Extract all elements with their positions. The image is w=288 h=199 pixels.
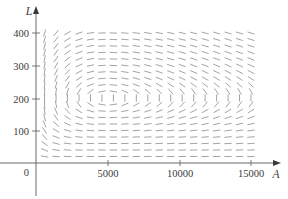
slope-segment (238, 89, 241, 95)
slope-segment (156, 110, 162, 112)
slope-segment (237, 64, 243, 67)
direction-field-segments (41, 30, 254, 157)
slope-segment (133, 33, 140, 34)
slope-segment (87, 39, 94, 40)
slope-segment (226, 89, 230, 95)
slope-segment (192, 89, 196, 94)
slope-segment (122, 110, 128, 111)
slope-segment (64, 136, 70, 137)
slope-segment (248, 130, 255, 131)
slope-segment (191, 64, 197, 66)
slope-segment (236, 39, 242, 41)
slope-segment (202, 123, 208, 124)
slope-segment (248, 109, 254, 112)
slope-segment (191, 102, 195, 107)
slope-segment (145, 77, 151, 79)
slope-segment (156, 77, 162, 80)
slope-segment (179, 64, 185, 66)
slope-segment (179, 83, 184, 87)
slope-segment (202, 71, 208, 74)
slope-segment (133, 117, 140, 118)
slope-segment (44, 36, 46, 42)
slope-segment (214, 71, 220, 74)
slope-segment (87, 65, 93, 66)
y-tick-label-100: 100 (13, 126, 29, 137)
slope-segment (249, 102, 253, 107)
slope-segment (133, 110, 139, 112)
y-tick-label-400: 400 (13, 28, 29, 39)
slope-segment (213, 123, 219, 124)
slope-segment (145, 124, 152, 125)
slope-segment (179, 77, 185, 80)
slope-segment (56, 88, 57, 95)
slope-segment (214, 109, 220, 112)
x-tick-label-5000: 5000 (98, 168, 119, 179)
slope-segment (190, 130, 197, 131)
slope-segment (54, 115, 58, 120)
slope-segment (76, 137, 83, 138)
slope-segment (248, 123, 254, 124)
slope-segment (76, 77, 82, 81)
slope-segment (168, 65, 174, 67)
slope-segment (236, 123, 242, 124)
x-tick-label-10000: 10000 (167, 168, 193, 179)
slope-segment (236, 137, 243, 138)
slope-segment (44, 30, 46, 36)
slope-segment (76, 51, 82, 53)
slope-segment (44, 69, 45, 76)
slope-segment (44, 114, 46, 120)
slope-segment (54, 122, 59, 126)
slope-segment (179, 130, 186, 131)
slope-segment (156, 130, 163, 131)
slope-segment (179, 137, 186, 138)
slope-segment (99, 104, 106, 105)
slope-segment (145, 130, 152, 131)
slope-segment (54, 30, 58, 35)
slope-segment (202, 39, 208, 41)
slope-segment (54, 37, 58, 42)
slope-segment (133, 39, 140, 40)
slope-segment (190, 123, 196, 124)
slope-segment (214, 64, 220, 67)
slope-segment (156, 45, 162, 46)
slope-segment (99, 111, 106, 112)
slope-segment (44, 75, 45, 82)
slope-segment (168, 110, 174, 113)
slope-segment (43, 121, 45, 127)
slope-segment (76, 70, 82, 73)
slope-segment (133, 58, 140, 59)
slope-segment (215, 102, 219, 107)
slope-segment (87, 110, 93, 112)
slope-segment (133, 52, 140, 53)
slope-segment (202, 64, 208, 66)
slope-segment (122, 103, 128, 105)
slope-segment (133, 65, 139, 66)
slope-segment (87, 117, 94, 118)
slope-segment (213, 32, 219, 34)
slope-segment (225, 32, 231, 34)
slope-segment (157, 89, 162, 94)
slope-segment (54, 50, 58, 55)
slope-segment (179, 39, 185, 41)
slope-segment (55, 108, 58, 114)
slope-segment (248, 51, 254, 53)
slope-segment (225, 58, 231, 60)
slope-segment (44, 56, 45, 62)
slope-segment (76, 109, 82, 112)
slope-segment (66, 101, 68, 107)
slope-segment (53, 150, 60, 151)
slope-segment (237, 83, 242, 87)
slope-segment (66, 82, 69, 88)
slope-segment (65, 123, 71, 126)
slope-segment (179, 123, 186, 124)
slope-segment (225, 77, 231, 80)
slope-segment (122, 52, 129, 53)
y-tick-label-200: 200 (13, 94, 29, 105)
slope-segment (213, 39, 219, 41)
slope-segment (168, 45, 174, 47)
slope-segment (225, 130, 232, 131)
slope-segment (54, 56, 58, 62)
slope-segment (76, 130, 83, 131)
slope-segment (179, 110, 185, 113)
slope-segment (248, 58, 254, 60)
